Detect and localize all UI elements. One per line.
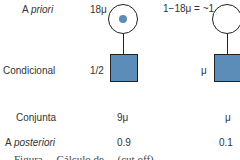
prior-italic: priori xyxy=(31,4,53,15)
posterior-italic: posteriori xyxy=(14,137,55,148)
h1-connector-line xyxy=(123,34,124,55)
row-label-prior: A priori xyxy=(22,4,53,15)
prior-prefix: A xyxy=(22,4,31,15)
posterior-prefix: A xyxy=(5,137,14,148)
h2-conditional-value: μ xyxy=(201,65,207,76)
h2-connector-line xyxy=(227,34,228,55)
h1-prior-value: 18μ xyxy=(90,4,107,15)
h1-posterior-value: 0.9 xyxy=(117,137,131,148)
carrier-dot-icon xyxy=(119,15,127,23)
row-label-posterior: A posteriori xyxy=(5,137,55,148)
affected-son-square-2 xyxy=(214,54,240,82)
carrier-mother-circle xyxy=(108,4,138,34)
affected-son-square xyxy=(110,54,138,82)
h1-conditional-value: 1/2 xyxy=(90,65,104,76)
row-label-conditional: Condicional xyxy=(3,65,55,76)
noncarrier-mother-circle xyxy=(212,4,240,34)
h2-joint-value: μ xyxy=(225,112,231,123)
h2-posterior-value: 0.1 xyxy=(219,137,233,148)
h1-joint-value: 9μ xyxy=(117,112,128,123)
figure-caption: Figura ... Cálculo de ... (cut off) xyxy=(14,153,154,160)
h2-prior-value: 1−18μ = ~1 xyxy=(163,3,214,14)
row-label-joint: Conjunta xyxy=(16,112,56,123)
